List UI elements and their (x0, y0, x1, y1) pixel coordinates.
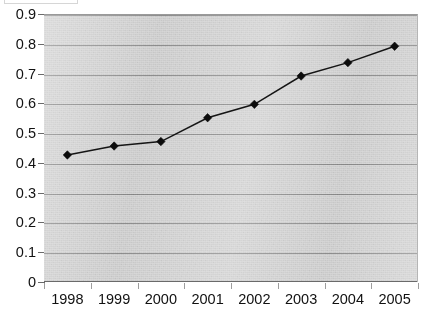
x-axis-tick (138, 283, 139, 289)
x-axis-tick (44, 283, 45, 289)
y-axis-tick-label: 0 (2, 275, 36, 290)
x-axis-tick (325, 283, 326, 289)
x-axis-tick (184, 283, 185, 289)
y-axis-tick-label: 0.7 (2, 67, 36, 82)
plot-area (44, 14, 418, 282)
y-axis-tick-label: 0.8 (2, 37, 36, 52)
y-axis-tick-label: 0.4 (2, 156, 36, 171)
x-axis-tick-label: 2002 (238, 292, 270, 307)
data-point-marker (203, 114, 211, 122)
x-axis-tick (231, 283, 232, 289)
x-axis-tick-label: 2001 (191, 292, 223, 307)
y-axis-labels: 0.90.80.70.60.50.40.30.20.10 (0, 0, 36, 317)
x-axis-tick-label: 2004 (332, 292, 364, 307)
x-axis-tick (371, 283, 372, 289)
line-chart-figure: 0.90.80.70.60.50.40.30.20.10 19981999200… (0, 0, 431, 317)
data-point-marker (157, 137, 165, 145)
data-point-marker (390, 42, 398, 50)
y-axis-tick-label: 0.1 (2, 245, 36, 260)
x-axis-tick-label: 1998 (51, 292, 83, 307)
data-point-marker (63, 151, 71, 159)
data-point-marker (297, 72, 305, 80)
x-axis-tick (91, 283, 92, 289)
data-series-layer (44, 15, 418, 283)
x-axis-tick (418, 283, 419, 289)
y-axis-tick-label: 0.3 (2, 186, 36, 201)
x-axis-tick-label: 2003 (285, 292, 317, 307)
series-markers (63, 42, 399, 159)
x-axis-tick-label: 1999 (98, 292, 130, 307)
y-axis-tick-label: 0.5 (2, 126, 36, 141)
y-axis-tick-label: 0.9 (2, 7, 36, 22)
y-axis-tick-label: 0.6 (2, 96, 36, 111)
x-axis-tick-label: 2005 (378, 292, 410, 307)
x-axis-tick (278, 283, 279, 289)
data-point-marker (110, 142, 118, 150)
data-point-marker (250, 100, 258, 108)
x-axis-tick-label: 2000 (145, 292, 177, 307)
data-point-marker (344, 58, 352, 66)
y-axis-tick-label: 0.2 (2, 215, 36, 230)
